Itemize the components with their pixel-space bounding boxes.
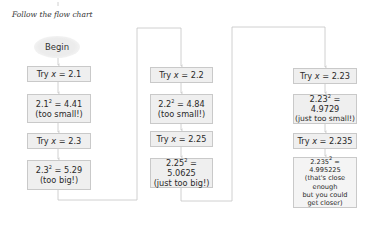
result-note: (just too big!) xyxy=(154,178,210,188)
step-square-2-235: 2.2352 = 4.995225 (that's close enough b… xyxy=(293,157,357,208)
step-square-2-3: 2.32 = 5.29 (too big!) xyxy=(27,160,91,190)
step-try-2-25: Try x = 2.25 xyxy=(150,131,213,147)
result-note-line: (that's close enough xyxy=(294,174,356,191)
step-try-2-1: Try x = 2.1 xyxy=(27,66,91,82)
result-note: (too small!) xyxy=(35,109,82,119)
step-try-2-23: Try x = 2.23 xyxy=(293,68,357,84)
result-note: (too big!) xyxy=(40,175,78,185)
step-square-2-25: 2.252 = 5.0625 (just too big!) xyxy=(150,158,213,188)
step-square-2-23: 2.232 = 4.9729 (just too small!) xyxy=(293,94,357,124)
result-note: (too small!) xyxy=(158,109,205,119)
step-square-2-1: 2.12 = 4.41 (too small!) xyxy=(27,94,91,123)
begin-label: Begin xyxy=(45,42,69,52)
step-square-2-2: 2.22 = 4.84 (too small!) xyxy=(150,94,213,124)
begin-node: Begin xyxy=(34,36,80,58)
step-try-2-235: Try x = 2.235 xyxy=(293,133,357,149)
result-note-line: get closer) xyxy=(307,199,342,207)
step-try-2-3: Try x = 2.3 xyxy=(27,133,91,149)
result-note: (just too small!) xyxy=(295,114,355,124)
result-note-line: but you could xyxy=(302,191,347,199)
step-try-2-2: Try x = 2.2 xyxy=(150,67,213,83)
